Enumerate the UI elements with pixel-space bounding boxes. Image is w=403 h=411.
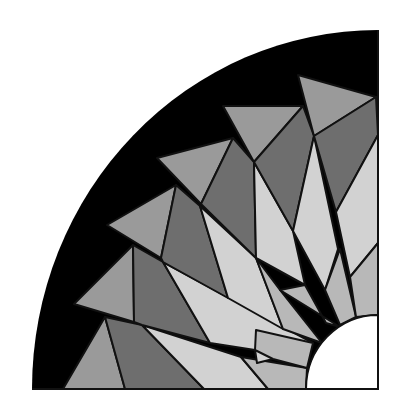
quilt-block-artwork <box>0 0 403 411</box>
